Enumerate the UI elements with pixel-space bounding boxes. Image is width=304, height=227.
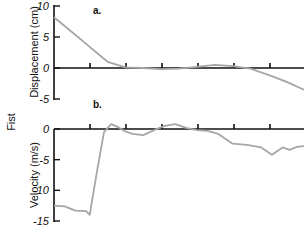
side-label-fist: Fist [5,113,17,131]
panel-label: b. [93,99,102,110]
y-tick-label: -5 [39,154,50,166]
y-tick-label: 0 [43,123,50,135]
y-axis-title: Velocity (m/s) [28,142,40,208]
y-tick-label: 0 [43,62,50,74]
y-tick-label: -5 [39,93,50,105]
y-axis-title: Displacement (cm) [28,6,40,98]
y-tick-label: 5 [43,31,50,43]
y-tick-label: -15 [33,215,50,227]
data-trace-displacement [54,17,304,90]
panel-label: a. [93,5,102,16]
data-trace-velocity [54,124,304,215]
figure-canvas: 1050-5Displacement (cm)a.0-5-10-15Veloci… [0,0,304,227]
